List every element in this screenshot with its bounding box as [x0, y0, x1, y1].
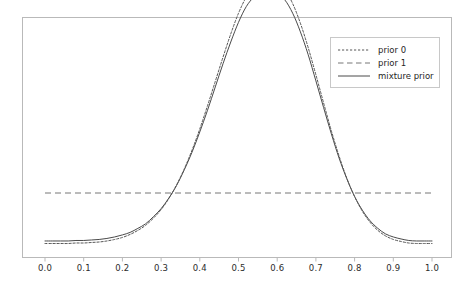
x-tick-label: 0.1 [69, 263, 99, 273]
x-tick-label: 0.0 [30, 263, 60, 273]
chart-figure: 0.00.10.20.30.40.50.60.70.80.91.0 prior … [0, 0, 470, 287]
legend-item-mixture-prior: mixture prior [337, 69, 432, 82]
chart-legend: prior 0 prior 1 mixture prior [330, 37, 440, 88]
x-tick-label: 0.8 [340, 263, 370, 273]
x-tick-label: 0.9 [378, 263, 408, 273]
legend-label-prior-0: prior 0 [378, 45, 406, 55]
legend-item-prior-0: prior 0 [337, 43, 432, 56]
x-tick-label: 0.6 [262, 263, 292, 273]
legend-item-prior-1: prior 1 [337, 56, 432, 69]
x-tick-label: 0.2 [107, 263, 137, 273]
legend-label-mixture-prior: mixture prior [378, 71, 434, 81]
legend-swatch-prior-1 [337, 58, 371, 68]
x-tick-label: 0.5 [224, 263, 254, 273]
legend-swatch-mixture-prior [337, 71, 371, 81]
legend-swatch-prior-0 [337, 45, 371, 55]
x-tick-label: 1.0 [417, 263, 447, 273]
x-tick-label: 0.3 [146, 263, 176, 273]
legend-label-prior-1: prior 1 [378, 58, 406, 68]
x-tick-label: 0.7 [301, 263, 331, 273]
x-tick-label: 0.4 [185, 263, 215, 273]
